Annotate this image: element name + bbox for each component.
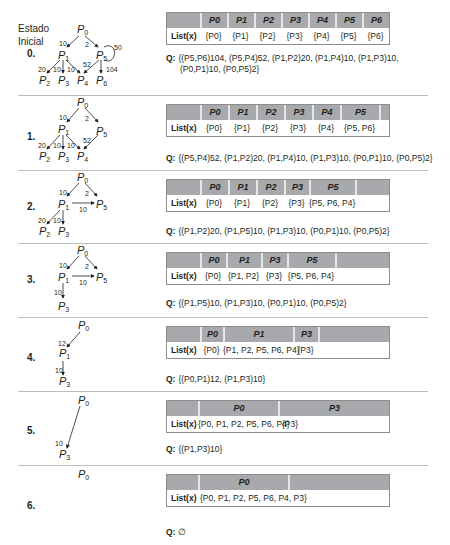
queue-line-1: {(P1,P5)10, (P1,P3)10, (P0,P1)10, (P0,P5… (178, 298, 346, 308)
header-cell: P5 (309, 180, 355, 195)
svg-text:P5: P5 (96, 125, 107, 138)
queue-step-1: Q:{(P5,P4)52, (P1,P2)20, (P1,P4)10, (P1,… (166, 153, 433, 164)
queue-label: Q: (166, 444, 175, 454)
header-cell: P0 (200, 327, 223, 342)
list-cell: {P0} (200, 195, 228, 211)
svg-text:P3: P3 (59, 375, 70, 388)
svg-text:P0: P0 (77, 23, 88, 36)
list-table-step-1: P0 P1 P2 P3 P4 P5 List(x) {P0} {P1} {P2}… (166, 104, 390, 137)
queue-step-2: Q:{(P1,P2)20, (P1,P5)10, (P1,P3)10, (P0,… (166, 226, 390, 237)
svg-text:10: 10 (79, 206, 87, 213)
list-cell: {P3} (281, 28, 308, 44)
svg-text:P5: P5 (96, 198, 107, 211)
list-cell: {P0, P1, P2, P5, P6, P4} (198, 416, 278, 432)
svg-text:P3: P3 (58, 74, 69, 87)
svg-text:2: 2 (85, 115, 89, 122)
header-cell: P4 (312, 105, 340, 120)
list-cell: {P1} (228, 195, 256, 211)
svg-text:P1: P1 (58, 271, 69, 284)
list-cell: {P3} (284, 120, 312, 136)
list-table-step-5: P0 P3 List(x) {P0, P1, P2, P5, P6, P4} {… (166, 400, 390, 433)
svg-text:P4: P4 (77, 74, 88, 87)
header-cell: P3 (281, 13, 308, 28)
header-cell: P5 (287, 253, 335, 268)
header-cell-empty (288, 475, 389, 490)
list-cell: {P3} (284, 195, 309, 211)
header-cell: P5 (340, 105, 379, 120)
header-cell: P3 (284, 105, 312, 120)
svg-text:2: 2 (85, 190, 89, 197)
list-cell: {P3} (278, 416, 302, 432)
queue-line-1: {(P5,P4)52, (P1,P2)20, (P1,P4)10, (P1,P3… (178, 153, 432, 163)
svg-text:10: 10 (55, 367, 63, 374)
svg-text:P3: P3 (58, 150, 69, 163)
header-cell: P3 (261, 253, 287, 268)
svg-text:10: 10 (59, 189, 67, 196)
svg-text:52: 52 (83, 61, 91, 68)
svg-text:2: 2 (85, 263, 89, 270)
queue-label: Q: (166, 527, 175, 537)
header-cell: P2 (256, 180, 284, 195)
svg-text:10: 10 (53, 217, 61, 224)
header-cell-empty (167, 327, 200, 342)
queue-step-3: Q:{(P1,P5)10, (P1,P3)10, (P0,P1)10, (P0,… (166, 298, 347, 309)
graph-step-1: P0 P1 P5 P2 P3 P4 10 2 20 10 10 52 (0, 95, 160, 175)
svg-text:104: 104 (106, 66, 118, 73)
list-cell: {P2} (256, 120, 284, 136)
header-cell: P4 (308, 13, 335, 28)
svg-text:P5: P5 (96, 49, 107, 62)
queue-label: Q: (166, 298, 175, 308)
graph-step-3: P0 P1 P5 P3 10 2 10 10 (0, 243, 160, 318)
svg-text:P6: P6 (96, 74, 107, 87)
svg-text:P0: P0 (77, 171, 88, 184)
graph-step-4: P0 P1 P3 12 10 (0, 310, 160, 390)
svg-text:20: 20 (38, 66, 46, 73)
step-label-6: 6. (27, 500, 35, 511)
queue-line-1: {(P5,P6)104, (P5,P4)52, (P1,P2)20, (P1,P… (178, 53, 398, 63)
table-body-row: List(x) {P0} {P1} {P2} {P3} {P4} {P5, P6… (167, 120, 389, 136)
list-cell: {P5, P6} (340, 120, 379, 136)
svg-text:P2: P2 (39, 150, 50, 163)
list-cell: {P1} (227, 28, 254, 44)
list-cell: {P4} (308, 28, 335, 44)
svg-text:P0: P0 (78, 468, 89, 481)
queue-label: Q: (166, 374, 175, 384)
table-header-row: P0 P3 (167, 401, 389, 416)
list-cell: {P0} (200, 120, 228, 136)
svg-text:10: 10 (59, 262, 67, 269)
list-cell: {P4} (312, 120, 340, 136)
table-header-row: P0 P1 P3 P5 (167, 253, 389, 268)
queue-line-1: ∅ (178, 527, 186, 537)
header-cell: P3 (278, 401, 389, 416)
header-cell: P0 (200, 253, 226, 268)
header-cell: P0 (200, 13, 227, 28)
svg-text:10: 10 (67, 142, 75, 149)
svg-text:P2: P2 (39, 225, 50, 238)
svg-text:P5: P5 (96, 271, 107, 284)
header-cell: P1 (227, 13, 254, 28)
header-cell-empty (379, 105, 389, 120)
table-body-row: List(x) {P0} {P1, P2} {P3} {P5, P6, P4} (167, 268, 389, 284)
header-cell-empty (167, 105, 200, 120)
graph-step-2: P0 P1 P5 P2 P3 10 2 10 20 10 (0, 170, 160, 245)
header-cell: P0 (198, 401, 278, 416)
list-table-step-3: P0 P1 P3 P5 List(x) {P0} {P1, P2} {P3} {… (166, 252, 390, 285)
list-cell: {P3} (261, 268, 287, 284)
svg-text:P0: P0 (77, 244, 88, 257)
svg-text:10: 10 (59, 114, 67, 121)
svg-text:10: 10 (53, 142, 61, 149)
header-cell: P0 (200, 180, 228, 195)
header-cell: P3 (284, 180, 309, 195)
graph-step-0: P0 P1 P5 P2 P3 P4 P6 10 2 50 20 10 10 52… (0, 0, 160, 100)
header-cell-empty (335, 253, 389, 268)
queue-step-0: Q:{(P5,P6)104, (P5,P4)52, (P1,P2)20, (P1… (166, 53, 399, 75)
header-cell-empty (167, 13, 200, 28)
list-table-step-4: P0 P1 P3 List(x) {P0} {P1, P2, P5, P6, P… (166, 326, 390, 359)
queue-line-2: (P0,P1)10, (P0,P5)2} (166, 64, 399, 75)
list-cell: {P1, P2, P5, P6, P4} (223, 342, 293, 358)
queue-label: Q: (166, 226, 175, 236)
queue-label: Q: (166, 53, 175, 63)
header-cell: P6 (362, 13, 389, 28)
list-cell: {P1} (228, 120, 256, 136)
header-cell: P1 (226, 253, 261, 268)
